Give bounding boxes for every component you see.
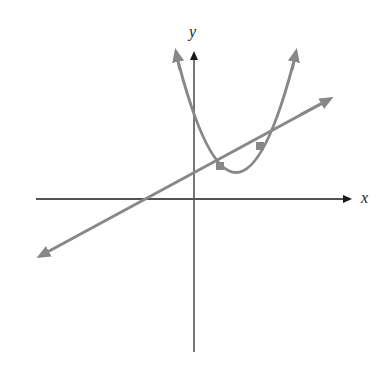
line-curve-end xyxy=(300,99,330,115)
line-curve xyxy=(40,99,330,256)
intersection-point-1 xyxy=(216,162,224,170)
intersection-point-2 xyxy=(256,142,264,150)
graph-canvas: x y xyxy=(0,0,381,374)
x-axis-label: x xyxy=(360,189,368,206)
y-axis-label: y xyxy=(187,23,197,41)
parabola-left-arrow xyxy=(176,52,180,70)
parabola-right-arrow xyxy=(292,52,296,70)
